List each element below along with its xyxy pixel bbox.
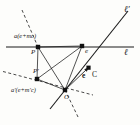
vector-label-e: e: [82, 72, 85, 80]
point-marker-P: [36, 45, 40, 49]
point-marker-e: [80, 44, 84, 48]
point-label-P-prime: P′: [33, 68, 39, 75]
point-label-e: e: [85, 48, 88, 55]
point-label-O: O: [64, 94, 69, 101]
line-label-l: ℓ: [124, 48, 128, 57]
point-marker-C-tip: [86, 66, 90, 70]
dashed-ray-above-P: [22, 10, 38, 47]
formula-lower-label: a′(e+m′c): [11, 87, 36, 93]
formula-upper-label: a(e+mc): [14, 33, 36, 39]
figure-canvas: [0, 0, 140, 125]
segment-P-prime-to-O: [37, 79, 65, 90]
geometry-figure: a(e+mc) a′(e+m′c) P P′ e O e C ℓ′ ℓ: [0, 0, 140, 125]
line-label-l-prime: ℓ′: [124, 5, 130, 14]
point-marker-O: [63, 88, 67, 92]
vector-label-C: C: [92, 71, 97, 79]
point-label-P: P: [31, 49, 35, 56]
point-marker-P-prime: [35, 77, 39, 81]
